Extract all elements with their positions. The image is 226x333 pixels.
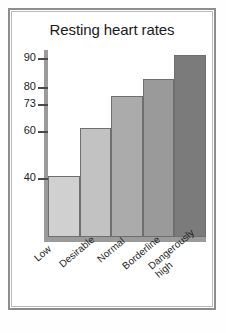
y-tick-label: 90 xyxy=(10,52,36,63)
y-tick-mark xyxy=(38,178,48,180)
chart-title: Resting heart rates xyxy=(11,21,213,39)
bar-low[interactable] xyxy=(48,176,80,237)
y-tick-label: 80 xyxy=(10,81,36,92)
y-tick-mark xyxy=(38,131,48,133)
bar-series xyxy=(48,50,206,237)
y-tick-label: 73 xyxy=(10,98,36,109)
bar-normal[interactable] xyxy=(111,96,143,237)
y-tick-mark xyxy=(38,87,48,89)
y-tick-label: 60 xyxy=(10,125,36,136)
bar-desirable[interactable] xyxy=(80,128,112,237)
x-axis-labels: Low Desirable Normal Borderline Dangerou… xyxy=(0,243,226,313)
bar-borderline[interactable] xyxy=(143,79,175,237)
chart-canvas: Resting heart rates 90 80 73 60 40 xyxy=(0,0,226,333)
bar-dangerously-high[interactable] xyxy=(174,55,206,237)
y-tick-mark xyxy=(38,58,48,60)
y-tick-mark xyxy=(38,104,48,106)
y-tick-label: 40 xyxy=(10,172,36,183)
x-tick-label-low: Low xyxy=(32,243,53,263)
